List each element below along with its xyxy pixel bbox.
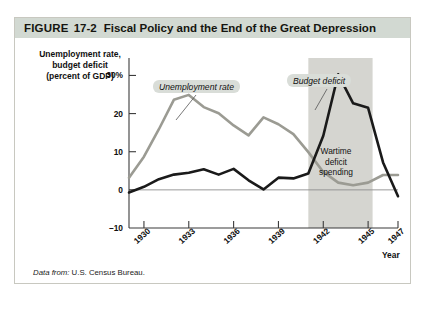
y-axis-title-line-1: Unemployment rate,: [21, 49, 139, 60]
wartime-label-line-2: deficit: [305, 157, 367, 168]
svg-text:0: 0: [118, 185, 123, 195]
source-prefix: Data from:: [33, 268, 69, 277]
figure-card: FIGURE 17-2 Fiscal Policy and the End of…: [14, 17, 411, 284]
wartime-label-line-1: Wartime: [305, 146, 367, 157]
callout-budget-deficit: Budget deficit: [287, 74, 351, 87]
x-axis-title: Year: [382, 250, 400, 260]
plot-region: Unemployment rate, budget deficit (perce…: [15, 38, 410, 285]
figure-header: FIGURE 17-2 Fiscal Policy and the End of…: [15, 18, 410, 38]
y-axis-ticks: –100102030%: [106, 70, 136, 233]
svg-text:1947: 1947: [386, 226, 407, 246]
y-axis-title-line-3: (percent of GDP): [21, 71, 139, 82]
y-axis-title: Unemployment rate, budget deficit (perce…: [21, 49, 139, 82]
svg-text:1936: 1936: [221, 226, 242, 246]
wartime-label-line-3: spending: [305, 167, 367, 178]
figure-label: FIGURE: [24, 22, 69, 34]
source-note: Data from: U.S. Census Bureau.: [33, 268, 145, 277]
svg-text:1942: 1942: [311, 226, 332, 246]
svg-text:20: 20: [114, 109, 124, 119]
figure-title: Fiscal Policy and the End of the Great D…: [104, 22, 376, 34]
svg-text:1933: 1933: [176, 226, 197, 246]
callout-unemployment-rate: Unemployment rate: [153, 80, 240, 93]
svg-text:–10: –10: [109, 223, 123, 233]
svg-text:1939: 1939: [266, 226, 287, 246]
svg-text:10: 10: [114, 147, 124, 157]
wartime-deficit-spending-label: Wartime deficit spending: [305, 146, 367, 178]
svg-text:1945: 1945: [356, 226, 377, 246]
svg-text:1930: 1930: [132, 226, 153, 246]
source-body: U.S. Census Bureau.: [72, 268, 145, 277]
y-axis-title-line-2: budget deficit: [21, 60, 139, 71]
figure-number: 17-2: [74, 22, 97, 34]
